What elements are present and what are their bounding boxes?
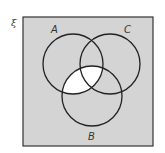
universal-set-symbol: ξ xyxy=(11,17,17,28)
venn-diagram: ξ A C B xyxy=(0,0,165,153)
set-c-label: C xyxy=(124,24,131,35)
set-b-label: B xyxy=(88,131,95,142)
set-a-label: A xyxy=(50,24,58,35)
